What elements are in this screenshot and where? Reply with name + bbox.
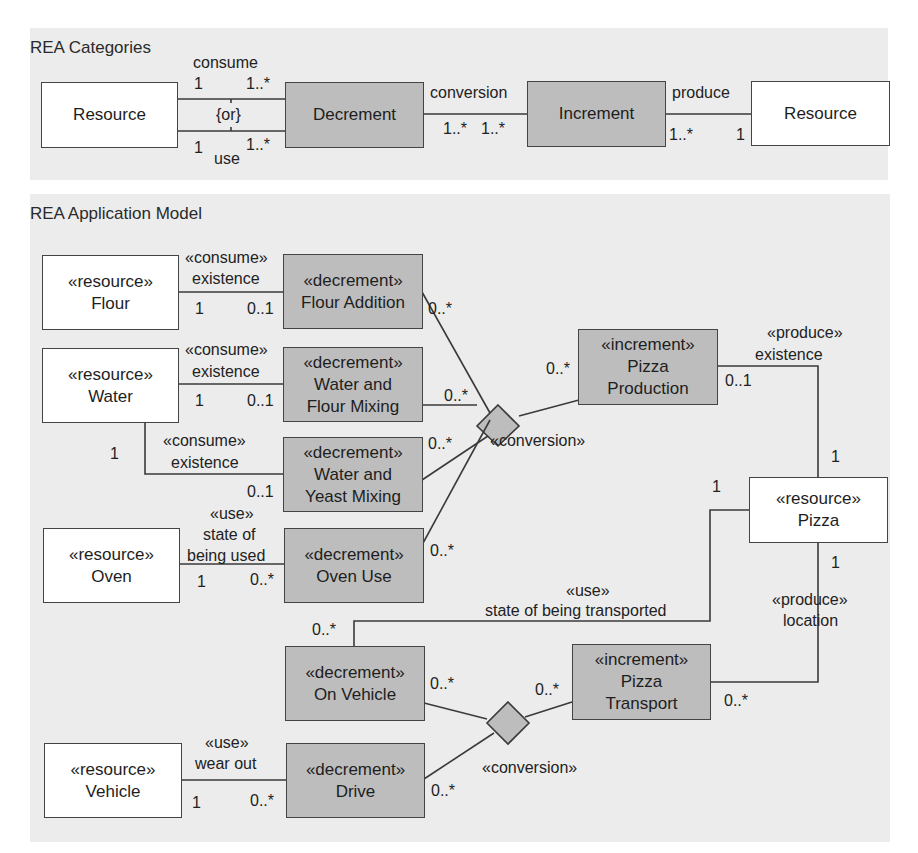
oven-use-stereotype: «use»: [210, 503, 254, 524]
mult-pizza-use-1: 1: [712, 476, 721, 497]
mult-on-vehicle-conv: 0..*: [430, 673, 454, 694]
stereotype: «decrement»: [303, 442, 402, 464]
decrement-oven-use[interactable]: «decrement» Oven Use: [284, 528, 424, 603]
resource-oven[interactable]: «resource» Oven: [43, 528, 180, 603]
mult-consume-decrement: 1..*: [246, 73, 270, 94]
stereotype: «resource»: [68, 271, 153, 293]
categories-title: REA Categories: [30, 38, 151, 58]
use-transported-stereotype: «use»: [566, 580, 610, 601]
stereotype: «resource»: [69, 544, 154, 566]
stereotype: «decrement»: [303, 270, 402, 292]
category-increment[interactable]: Increment: [527, 81, 666, 147]
category-resource-left[interactable]: Resource: [41, 82, 178, 148]
mult-conversion-decrement: 1..*: [443, 118, 467, 139]
water-existence-label: existence: [192, 361, 260, 382]
stereotype: «decrement»: [305, 662, 404, 684]
stereotype: «decrement»: [303, 352, 402, 374]
box-label: Decrement: [313, 104, 396, 126]
resource-pizza[interactable]: «resource» Pizza: [749, 477, 888, 543]
increment-pizza-transport[interactable]: «increment» Pizza Transport: [572, 644, 711, 720]
mult-on-vehicle-use: 0..*: [312, 619, 336, 640]
produce-existence-label: existence: [755, 344, 823, 365]
mult-oven-use-0many: 0..*: [250, 569, 274, 590]
box-label-line1: Pizza: [621, 671, 663, 693]
conversion-label: conversion: [430, 82, 507, 103]
produce-location-stereotype: «produce»: [772, 589, 848, 610]
conversion-1-stereotype: «conversion»: [490, 430, 585, 451]
box-label: Resource: [73, 104, 146, 126]
mult-water-1: 1: [195, 390, 204, 411]
oven-being-used-label: being used: [187, 545, 265, 566]
box-label-line2: Flour Mixing: [307, 396, 400, 418]
consume-label: consume: [193, 52, 258, 73]
box-label-line1: Water and: [314, 464, 392, 486]
box-label: On Vehicle: [314, 684, 396, 706]
conversion-2-stereotype: «conversion»: [482, 757, 577, 778]
stereotype: «resource»: [70, 759, 155, 781]
mult-flour-addition-conv: 0..*: [428, 298, 452, 319]
resource-vehicle[interactable]: «resource» Vehicle: [44, 743, 182, 818]
decrement-water-yeast-mixing[interactable]: «decrement» Water and Yeast Mixing: [283, 437, 423, 512]
box-label: Pizza: [798, 510, 840, 532]
use-label: use: [214, 148, 240, 169]
stereotype: «resource»: [776, 488, 861, 510]
mult-pizza-location-1: 1: [831, 552, 840, 573]
mult-conv-pizza-production: 0..*: [546, 358, 570, 379]
mult-pizza-produce-1: 1: [831, 446, 840, 467]
mult-conv-pizza-transport: 0..*: [535, 679, 559, 700]
mult-oven-1: 1: [197, 571, 206, 592]
box-label: Flour Addition: [301, 292, 405, 314]
resource-water[interactable]: «resource» Water: [42, 348, 179, 423]
mult-use-decrement: 1..*: [246, 134, 270, 155]
box-label-line2: Transport: [605, 693, 677, 715]
wear-out-label: wear out: [195, 753, 256, 774]
mult-vehicle-1: 1: [192, 792, 201, 813]
mult-water-yeast-1: 1: [110, 443, 119, 464]
box-label: Resource: [784, 103, 857, 125]
stereotype: «resource»: [68, 364, 153, 386]
box-label: Increment: [559, 103, 635, 125]
mult-water-flour-01: 0..1: [247, 390, 274, 411]
decrement-on-vehicle[interactable]: «decrement» On Vehicle: [285, 646, 425, 721]
stereotype: «increment»: [601, 334, 695, 356]
category-resource-right[interactable]: Resource: [751, 81, 890, 146]
mult-flour-addition-01: 0..1: [247, 298, 274, 319]
mult-flour-1: 1: [195, 298, 204, 319]
oven-state-of-label: state of: [203, 524, 255, 545]
stereotype: «decrement»: [304, 544, 403, 566]
box-label-line1: Pizza: [627, 356, 669, 378]
increment-pizza-production[interactable]: «increment» Pizza Production: [578, 329, 718, 405]
mult-oven-use-conv: 0..*: [430, 540, 454, 561]
category-decrement[interactable]: Decrement: [285, 82, 424, 148]
box-label: Water: [88, 386, 133, 408]
box-label: Flour: [91, 293, 130, 315]
produce-existence-stereotype: «produce»: [767, 322, 843, 343]
decrement-water-flour-mixing[interactable]: «decrement» Water and Flour Mixing: [283, 347, 423, 422]
stereotype: «decrement»: [306, 759, 405, 781]
flour-consume-stereotype: «consume»: [185, 247, 268, 268]
mult-consume-resource: 1: [194, 73, 203, 94]
box-label-line2: Production: [607, 378, 688, 400]
water-yeast-consume-stereotype: «consume»: [163, 430, 246, 451]
box-label: Vehicle: [86, 781, 141, 803]
mult-water-yeast-conv: 0..*: [428, 433, 452, 454]
decrement-drive[interactable]: «decrement» Drive: [286, 743, 425, 818]
box-label: Oven Use: [316, 566, 392, 588]
location-label: location: [783, 610, 838, 631]
flour-existence-label: existence: [192, 268, 260, 289]
mult-water-flour-conv: 0..*: [444, 385, 468, 406]
water-consume-stereotype: «consume»: [185, 339, 268, 360]
stereotype: «increment»: [595, 649, 689, 671]
mult-use-resource: 1: [194, 137, 203, 158]
box-label: Oven: [91, 566, 132, 588]
mult-pizza-production-01: 0..1: [725, 370, 752, 391]
resource-flour[interactable]: «resource» Flour: [42, 255, 179, 330]
decrement-flour-addition[interactable]: «decrement» Flour Addition: [283, 254, 423, 329]
vehicle-use-stereotype: «use»: [205, 732, 249, 753]
mult-drive-0many: 0..*: [250, 790, 274, 811]
mult-water-yeast-01: 0..1: [247, 481, 274, 502]
produce-label: produce: [672, 82, 730, 103]
application-title: REA Application Model: [30, 204, 202, 224]
mult-conversion-increment: 1..*: [481, 118, 505, 139]
state-transported-label: state of being transported: [485, 600, 666, 621]
